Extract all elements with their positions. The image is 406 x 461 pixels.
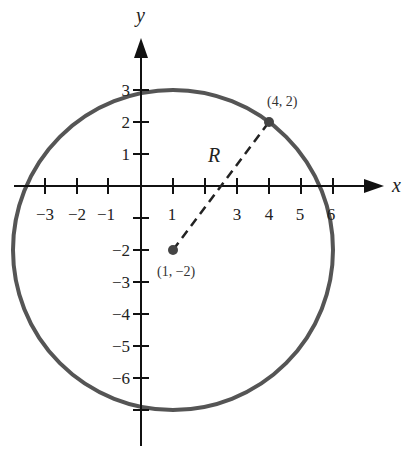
radius-label: R bbox=[207, 144, 220, 166]
y-tick-label: 1 bbox=[122, 145, 131, 164]
y-tick-label: 2 bbox=[122, 113, 131, 132]
x-tick-label: 3 bbox=[233, 205, 242, 224]
center-point-label: (1, −2) bbox=[157, 264, 196, 280]
edge-point bbox=[264, 117, 274, 127]
x-axis-arrow-icon bbox=[364, 179, 384, 193]
x-tick-label: −1 bbox=[97, 205, 115, 224]
x-tick-label: 4 bbox=[265, 205, 274, 224]
y-axis-label: y bbox=[134, 4, 145, 27]
y-tick-label: −5 bbox=[112, 337, 130, 356]
x-tick-label: 1 bbox=[168, 205, 177, 224]
y-tick-label: −4 bbox=[112, 305, 131, 324]
edge-point-label: (4, 2) bbox=[267, 94, 298, 110]
center-point bbox=[168, 245, 178, 255]
y-tick-label: −6 bbox=[112, 369, 130, 388]
x-axis-label: x bbox=[391, 174, 401, 196]
x-tick-label: 5 bbox=[296, 205, 305, 224]
y-tick-label: −2 bbox=[112, 241, 130, 260]
x-tick-label: −2 bbox=[68, 205, 86, 224]
y-axis-arrow-icon bbox=[134, 38, 148, 58]
x-tick-label: 6 bbox=[327, 205, 336, 224]
y-tick-label: 3 bbox=[122, 81, 131, 100]
y-tick-label: −3 bbox=[112, 273, 130, 292]
x-tick-label: −3 bbox=[36, 205, 54, 224]
coordinate-plane: −3 −2 −1 1 3 4 5 6 3 2 1 −2 −3 −4 −5 −6 … bbox=[0, 0, 406, 461]
